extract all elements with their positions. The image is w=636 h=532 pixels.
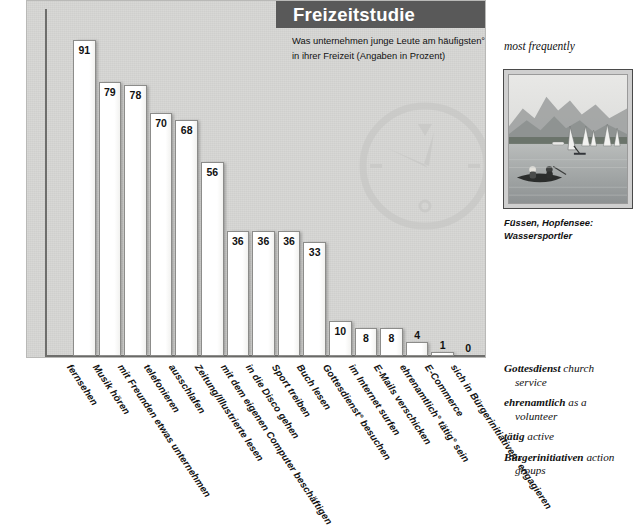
bar: 79 [99, 82, 122, 356]
glossary-definition: as a [566, 396, 587, 408]
bar: 8 [355, 328, 378, 356]
bar: 33 [303, 242, 326, 357]
most-frequently-note: most frequently [504, 40, 575, 52]
glossary-definition-continued: volunteer [504, 410, 636, 424]
bar: 36 [227, 231, 250, 356]
glossary-entry: ehrenamtlich as avolunteer [504, 396, 636, 423]
glossary-term: Bürgerinitiativen [504, 451, 584, 463]
glossary: Gottesdienst churchserviceehrenamtlich a… [504, 362, 636, 485]
bar-value-label: 79 [100, 86, 121, 98]
bar-value-label: 56 [202, 166, 223, 178]
glossary-entry: Bürgerinitiativen actiongroups [504, 451, 636, 478]
bar: 1 [431, 352, 454, 356]
bar-value-label: 0 [457, 342, 480, 354]
photo-caption-line-1: Füssen, Hopfensee: [504, 216, 634, 229]
glossary-definition-continued: groups [504, 464, 636, 478]
bar: 91 [73, 40, 96, 356]
photo-frame [503, 69, 633, 209]
bar-value-label: 8 [356, 332, 377, 344]
bar-value-label: 36 [279, 235, 300, 247]
bar-value-label: 8 [381, 332, 402, 344]
bar-value-label: 91 [74, 44, 95, 56]
glossary-term: ehrenamtlich [504, 396, 566, 408]
bar-value-label: 36 [253, 235, 274, 247]
photo-caption-line-2: Wassersportler [504, 229, 634, 242]
bar: 68 [175, 120, 198, 356]
bar: 70 [150, 113, 173, 356]
bar-series: 917978706856363636331088410 [47, 9, 486, 356]
glossary-definition: action [584, 451, 615, 463]
bar: 36 [278, 231, 301, 356]
bar-value-label: 70 [151, 117, 172, 129]
glossary-entry: Gottesdienst churchservice [504, 362, 636, 389]
bar-value-label: 68 [176, 124, 197, 136]
bar-value-label: 78 [125, 89, 146, 101]
chart-panel: Freizeitstudie Was unternehmen junge Leu… [26, 0, 486, 358]
glossary-definition: church [561, 362, 594, 374]
sidebar: most frequently [500, 0, 636, 532]
photo-caption: Füssen, Hopfensee: Wassersportler [504, 216, 634, 242]
glossary-entry: tätig active [504, 430, 636, 444]
bar: 78 [124, 85, 147, 356]
bar: 8 [380, 328, 403, 356]
glossary-term: Gottesdienst [504, 362, 561, 374]
glossary-definition-continued: service [504, 376, 636, 390]
bar: 10 [329, 321, 352, 356]
bar-value-label: 4 [407, 329, 428, 341]
x-axis-labels: fernsehenMusik hörenmit Freunden etwas u… [0, 358, 500, 528]
bar-value-label: 1 [432, 339, 453, 351]
bar-value-label: 33 [304, 246, 325, 258]
bar: 56 [201, 162, 224, 356]
photo-hopfensee [508, 74, 628, 204]
bar: 36 [252, 231, 275, 356]
glossary-definition: active [525, 430, 555, 442]
bar: 4 [406, 342, 429, 356]
bar-value-label: 36 [228, 235, 249, 247]
glossary-term: tätig [504, 430, 525, 442]
bar-value-label: 10 [330, 325, 351, 337]
